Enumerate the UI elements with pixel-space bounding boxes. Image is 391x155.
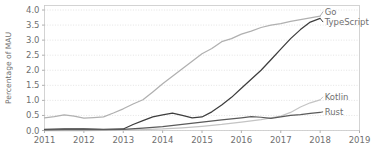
chart-container: 0.00.51.01.52.02.53.03.54.0 201120122013… xyxy=(0,0,391,155)
series-label-go: Go xyxy=(325,7,337,17)
series-label-leader-kotlin xyxy=(320,97,323,100)
x-tick-label: 2012 xyxy=(73,135,95,145)
series-labels: GoTypeScriptKotlinRust xyxy=(320,7,369,117)
series-label-leader-rust xyxy=(320,112,323,113)
x-tick-label: 2013 xyxy=(112,135,134,145)
chart-gridlines xyxy=(45,10,360,130)
series-label-typescript: TypeScript xyxy=(324,17,370,27)
x-tick-label: 2019 xyxy=(349,135,371,145)
y-tick-label: 0.5 xyxy=(26,110,40,120)
series-lines xyxy=(45,16,321,130)
series-label-leader-go xyxy=(320,12,323,17)
x-tick-label: 2015 xyxy=(191,135,213,145)
x-tick-label: 2014 xyxy=(152,135,174,145)
plot-frame xyxy=(45,6,360,131)
x-tick-label: 2011 xyxy=(34,135,56,145)
y-axis-ticks: 0.00.51.01.52.02.53.03.54.0 xyxy=(26,5,45,135)
x-axis-ticks: 201120122013201420152016201720182019 xyxy=(34,131,371,145)
series-line-go xyxy=(45,16,321,118)
y-tick-label: 3.0 xyxy=(26,35,40,45)
y-tick-label: 2.0 xyxy=(26,65,40,75)
x-tick-label: 2017 xyxy=(270,135,292,145)
series-line-typescript xyxy=(45,18,321,129)
x-tick-label: 2018 xyxy=(309,135,331,145)
y-tick-label: 1.5 xyxy=(26,80,40,90)
series-label-leader-typescript xyxy=(320,18,323,22)
x-tick-label: 2016 xyxy=(231,135,253,145)
line-chart: 0.00.51.01.52.02.53.03.54.0 201120122013… xyxy=(0,0,391,155)
y-tick-label: 4.0 xyxy=(26,5,40,15)
series-label-kotlin: Kotlin xyxy=(325,92,349,102)
y-tick-label: 1.0 xyxy=(26,95,40,105)
series-label-rust: Rust xyxy=(325,107,344,117)
y-axis-title-text: Percentage of MAU xyxy=(4,32,13,104)
y-tick-label: 2.5 xyxy=(26,50,40,60)
y-axis-title: Percentage of MAU xyxy=(4,32,13,104)
y-tick-label: 3.5 xyxy=(26,20,40,30)
